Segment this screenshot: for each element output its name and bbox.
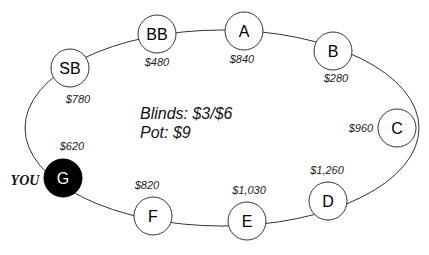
stack-amount: $840 bbox=[229, 53, 255, 65]
seat-label: A bbox=[239, 23, 250, 40]
seat-label: G bbox=[57, 170, 69, 187]
seat-a: A $840 bbox=[225, 12, 263, 65]
seat-label: SB bbox=[59, 60, 80, 77]
you-label: YOU bbox=[11, 173, 41, 188]
seat-d: D $1,260 bbox=[309, 164, 347, 220]
blinds-text: Blinds: $3/$6 bbox=[140, 105, 233, 122]
seat-g-hero: G $620 YOU bbox=[11, 140, 86, 197]
stack-amount: $820 bbox=[134, 179, 160, 191]
stack-amount: $620 bbox=[59, 140, 85, 152]
stack-amount: $1,260 bbox=[309, 164, 345, 176]
seat-b: B $280 bbox=[314, 32, 352, 84]
poker-table-diagram: Blinds: $3/$6 Pot: $9 SB $780 BB $480 A … bbox=[0, 0, 429, 255]
pot-text: Pot: $9 bbox=[140, 124, 191, 141]
seat-sb: SB $780 bbox=[51, 49, 91, 105]
stack-amount: $780 bbox=[65, 93, 91, 105]
seat-label: F bbox=[148, 208, 158, 225]
stack-amount: $960 bbox=[348, 122, 374, 134]
seat-label: B bbox=[328, 43, 339, 60]
seat-c: C $960 bbox=[348, 109, 416, 147]
seat-e: E $1,030 bbox=[228, 184, 267, 240]
seat-label: BB bbox=[146, 26, 167, 43]
seat-f: F $820 bbox=[134, 179, 172, 235]
seat-bb: BB $480 bbox=[138, 15, 176, 68]
seat-label: D bbox=[322, 193, 334, 210]
seat-label: C bbox=[391, 120, 403, 137]
seat-label: E bbox=[242, 213, 253, 230]
stack-amount: $1,030 bbox=[231, 184, 267, 196]
stack-amount: $480 bbox=[144, 56, 170, 68]
stack-amount: $280 bbox=[323, 72, 349, 84]
